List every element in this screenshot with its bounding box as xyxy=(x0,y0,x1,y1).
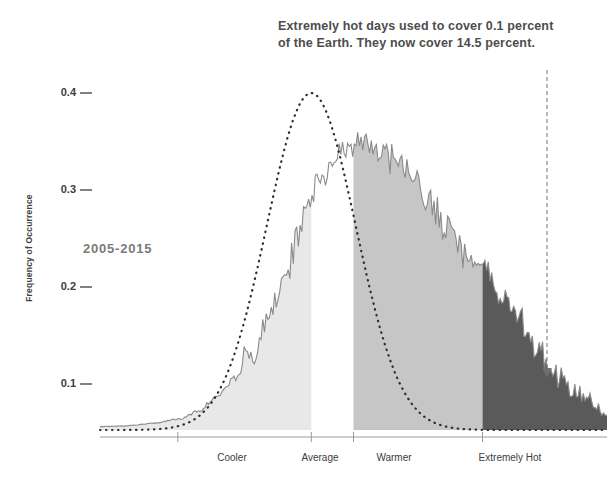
x-axis xyxy=(100,432,607,442)
shaded-bands xyxy=(100,60,607,430)
extremely-hot-threshold-arrow xyxy=(543,70,552,378)
y-axis-ticks xyxy=(80,93,92,384)
band-cooler xyxy=(100,60,311,430)
band-warmer xyxy=(354,60,483,430)
climate-distribution-chart: Extremely hot days used to cover 0.1 per… xyxy=(0,0,613,489)
band-extremely-hot xyxy=(483,60,608,430)
chart-canvas xyxy=(0,0,613,489)
